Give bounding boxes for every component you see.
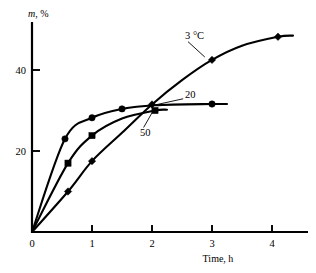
chart-figure: 012342040 3 °C2050 m, % Time, h: [0, 0, 316, 273]
chart-tick-labels: 012342040: [16, 65, 276, 249]
y-tick-label: 40: [16, 65, 27, 76]
data-point-marker: [119, 106, 125, 112]
curve-annotation-50: 50: [140, 127, 151, 138]
x-tick-label: 3: [209, 238, 214, 249]
data-point-marker: [89, 133, 95, 139]
chart-ticks: [32, 70, 272, 232]
curve-annotation-20: 20: [185, 89, 196, 100]
annotation-leader: [188, 42, 205, 57]
x-tick-label: 2: [149, 238, 154, 249]
y-tick-label: 20: [16, 146, 27, 157]
x-tick-label: 0: [29, 238, 34, 249]
data-point-marker: [65, 160, 71, 166]
chart-annotation-leaders: [144, 42, 205, 128]
chart-canvas: 012342040 3 °C2050 m, % Time, h: [0, 0, 316, 273]
x-tick-label: 1: [89, 238, 94, 249]
data-point-marker: [274, 33, 281, 40]
chart-markers: [62, 33, 282, 195]
curve-3-c: [32, 36, 293, 232]
data-point-marker: [209, 101, 215, 107]
x-axis-title: Time, h: [203, 253, 234, 264]
chart-annotations: 3 °C2050: [140, 30, 204, 138]
y-axis-title: m, %: [28, 8, 49, 19]
chart-curves: [32, 36, 293, 232]
data-point-marker: [89, 115, 95, 121]
curve-annotation-3-c: 3 °C: [185, 30, 204, 41]
data-point-marker: [62, 136, 68, 142]
x-tick-label: 4: [269, 238, 275, 249]
curve-20: [32, 104, 227, 232]
